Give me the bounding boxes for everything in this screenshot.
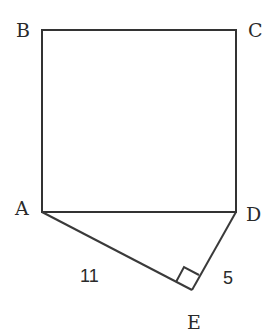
vertex-label-b: B (16, 19, 30, 41)
vertex-label-a: A (14, 197, 29, 219)
vertex-label-e: E (187, 311, 201, 333)
length-label-ae: 11 (80, 266, 99, 286)
vertex-label-d: D (246, 203, 261, 225)
geometry-diagram: B C A D E 11 5 (0, 0, 278, 335)
length-label-ed: 5 (223, 268, 233, 288)
vertex-label-c: C (248, 19, 263, 41)
segment-ae (42, 212, 192, 290)
right-angle-marker (176, 267, 199, 282)
